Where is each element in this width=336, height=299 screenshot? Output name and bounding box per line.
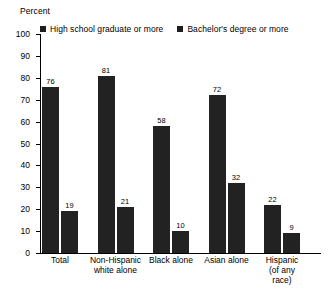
bar-group: 229 xyxy=(264,34,300,253)
x-axis-label: Non-Hispanic white alone xyxy=(90,255,141,275)
x-axis-line xyxy=(40,253,321,254)
legend-label-bachelors: Bachelor's degree or more xyxy=(187,24,288,34)
bar: 81 xyxy=(98,76,115,253)
y-tick: 90 xyxy=(36,56,40,57)
y-tick-label: 100 xyxy=(16,29,30,39)
y-tick: 70 xyxy=(36,100,40,101)
y-tick-label: 90 xyxy=(21,51,30,61)
y-tick: 30 xyxy=(36,187,40,188)
bar: 76 xyxy=(42,87,59,253)
bar: 22 xyxy=(264,205,281,253)
legend-swatch-high-school-icon xyxy=(40,26,46,32)
plot-area: 0102030405060708090100 76198121581072322… xyxy=(40,34,321,253)
y-axis-line xyxy=(40,34,41,253)
bar-group: 5810 xyxy=(153,34,189,253)
x-axis-label: Hispanic (of any race) xyxy=(263,255,302,285)
legend-label-high-school: High school graduate or more xyxy=(50,24,163,34)
y-tick: 40 xyxy=(36,165,40,166)
y-tick: 20 xyxy=(36,209,40,210)
bar-chart: Percent High school graduate or more Bac… xyxy=(0,0,336,299)
bar: 72 xyxy=(209,95,226,253)
y-tick-label: 20 xyxy=(21,204,30,214)
bar-group: 8121 xyxy=(98,34,134,253)
bar-value-label: 76 xyxy=(46,77,54,86)
bar: 21 xyxy=(117,207,134,253)
bar-value-label: 21 xyxy=(121,197,129,206)
legend-entry-bachelors: Bachelor's degree or more xyxy=(177,24,288,34)
bar-value-label: 72 xyxy=(213,85,221,94)
bar: 10 xyxy=(172,231,189,253)
y-tick-label: 50 xyxy=(21,139,30,149)
y-tick-label: 0 xyxy=(25,248,30,258)
bar: 19 xyxy=(61,211,78,253)
bar: 58 xyxy=(153,126,170,253)
y-tick: 10 xyxy=(36,231,40,232)
legend-entry-high-school: High school graduate or more xyxy=(40,24,163,34)
bar-value-label: 9 xyxy=(289,223,293,232)
chart-legend: High school graduate or more Bachelor's … xyxy=(40,24,289,34)
x-axis-label: Asian alone xyxy=(204,255,248,265)
y-tick: 60 xyxy=(36,122,40,123)
y-axis-title: Percent xyxy=(20,6,50,16)
bar-value-label: 22 xyxy=(268,195,276,204)
y-tick: 0 xyxy=(36,253,40,254)
y-tick-label: 40 xyxy=(21,160,30,170)
y-tick: 50 xyxy=(36,144,40,145)
bar: 32 xyxy=(228,183,245,253)
y-tick: 100 xyxy=(36,34,40,35)
y-tick-label: 30 xyxy=(21,182,30,192)
bar-value-label: 32 xyxy=(232,173,240,182)
bar: 9 xyxy=(283,233,300,253)
bar-group: 7619 xyxy=(42,34,78,253)
bar-value-label: 58 xyxy=(157,116,165,125)
x-axis-label: Black alone xyxy=(149,255,193,265)
bar-value-label: 19 xyxy=(65,201,73,210)
bar-value-label: 81 xyxy=(102,66,110,75)
y-tick-label: 60 xyxy=(21,117,30,127)
y-tick-label: 80 xyxy=(21,73,30,83)
x-axis-label: Total xyxy=(51,255,69,265)
legend-swatch-bachelors-icon xyxy=(177,26,183,32)
y-tick: 80 xyxy=(36,78,40,79)
bar-group: 7232 xyxy=(209,34,245,253)
bar-value-label: 10 xyxy=(176,221,184,230)
y-tick-label: 10 xyxy=(21,226,30,236)
y-tick-label: 70 xyxy=(21,95,30,105)
